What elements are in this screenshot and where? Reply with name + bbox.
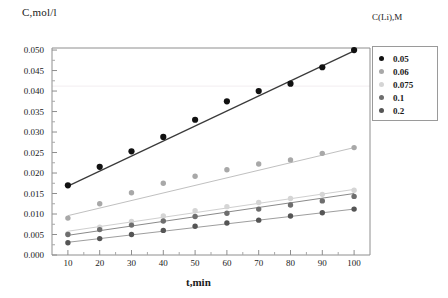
data-point [351, 194, 356, 199]
data-point [224, 220, 229, 225]
x-tick-label: 70 [254, 258, 263, 268]
legend-item-0.2[interactable]: 0.2 [379, 104, 433, 117]
data-point [319, 64, 325, 70]
legend-item-0.075[interactable]: 0.075 [379, 78, 433, 91]
data-point [192, 174, 197, 179]
data-point [97, 201, 102, 206]
data-point [288, 213, 293, 218]
x-tick-label: 20 [95, 258, 104, 268]
data-point [97, 227, 102, 232]
data-point [256, 88, 262, 94]
data-point [351, 206, 356, 211]
x-tick-label: 100 [347, 258, 361, 268]
data-point [192, 208, 197, 213]
legend-item-label: 0.1 [393, 93, 404, 103]
chart-container: C,mol/l t,min C(Li),M 0.0000.0050.0100.0… [0, 0, 448, 298]
data-point [128, 148, 134, 154]
data-point [192, 214, 197, 219]
data-point [65, 232, 70, 237]
legend-marker-icon [379, 108, 384, 113]
legend[interactable]: 0.050.060.0750.10.2 [372, 46, 438, 121]
data-point [256, 206, 261, 211]
data-point [161, 213, 166, 218]
data-point [192, 117, 198, 123]
x-tick-label: 90 [318, 258, 327, 268]
x-tick-label: 10 [63, 258, 72, 268]
data-point [224, 98, 230, 104]
x-tick-label: 60 [222, 258, 231, 268]
data-point [256, 161, 261, 166]
data-point [256, 200, 261, 205]
data-point [65, 182, 71, 188]
data-point [160, 134, 166, 140]
x-tick-label: 80 [286, 258, 295, 268]
data-point [351, 145, 356, 150]
data-point [97, 236, 102, 241]
data-point [351, 188, 356, 193]
legend-item-label: 0.2 [393, 106, 404, 116]
legend-item-label: 0.06 [393, 67, 409, 77]
data-point [351, 47, 357, 53]
trendline-0.075 [68, 189, 354, 231]
data-point [161, 218, 166, 223]
x-tick-label: 40 [159, 258, 168, 268]
legend-marker-icon [379, 95, 384, 100]
legend-marker-icon [379, 82, 384, 87]
data-point [224, 204, 229, 209]
data-point [287, 81, 293, 87]
legend-item-0.06[interactable]: 0.06 [379, 65, 433, 78]
data-point [288, 196, 293, 201]
plot-area [0, 0, 448, 298]
data-point [320, 210, 325, 215]
legend-item-0.05[interactable]: 0.05 [379, 52, 433, 65]
legend-item-label: 0.075 [393, 80, 413, 90]
data-point [65, 215, 70, 220]
data-point [161, 228, 166, 233]
x-tick-label: 30 [127, 258, 136, 268]
trendline-0.06 [68, 148, 354, 216]
trendline-0.05 [68, 51, 354, 186]
data-point [129, 190, 134, 195]
data-point [224, 210, 229, 215]
data-point [288, 202, 293, 207]
data-point [65, 240, 70, 245]
x-tick-label: 50 [191, 258, 200, 268]
data-point [129, 232, 134, 237]
data-point [224, 167, 229, 172]
legend-marker-icon [379, 56, 384, 61]
data-point [320, 151, 325, 156]
legend-item-0.1[interactable]: 0.1 [379, 91, 433, 104]
data-point [288, 157, 293, 162]
data-point [97, 164, 103, 170]
legend-item-label: 0.05 [393, 54, 409, 64]
data-point [256, 217, 261, 222]
legend-marker-icon [379, 69, 384, 74]
data-point [192, 224, 197, 229]
data-point [129, 222, 134, 227]
data-point [320, 198, 325, 203]
data-point [320, 192, 325, 197]
data-point [161, 181, 166, 186]
